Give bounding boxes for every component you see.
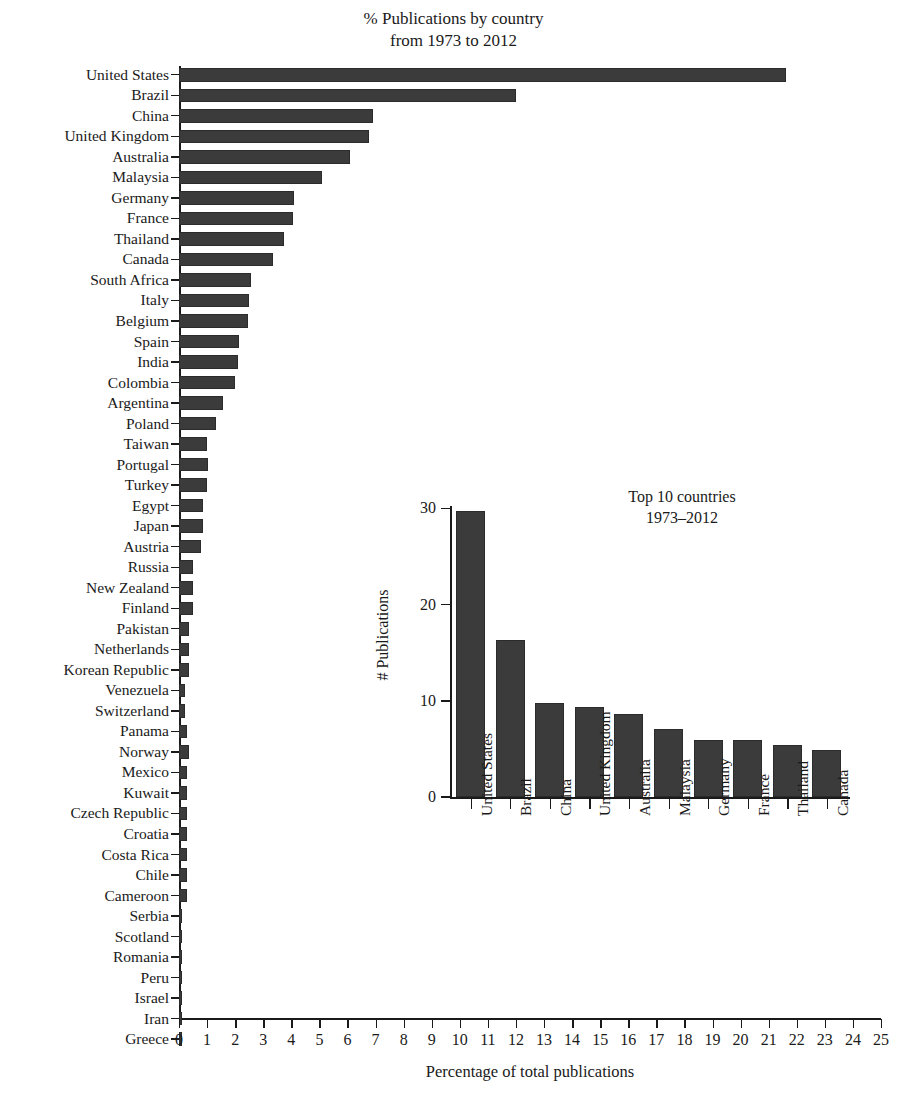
bar [179,663,189,677]
bar [179,109,373,123]
x-axis-tick [347,1019,348,1028]
category-label: Netherlands [0,641,169,657]
inset-x-axis-tick [589,799,590,809]
inset-y-axis-tick-label: 0 [392,789,436,805]
category-label-wrap: Brazil [0,87,169,103]
bar [179,971,182,985]
inset-x-axis-tick-label: United States [478,733,496,816]
category-label-wrap: Croatia [0,826,169,842]
bar [179,622,189,636]
category-label: Romania [0,949,169,965]
x-axis-tick [881,1019,882,1028]
category-label: United Kingdom [0,128,169,144]
category-label-wrap: Mexico [0,764,169,780]
bar [179,991,182,1005]
bar [179,376,235,390]
category-label: Portugal [0,457,169,473]
inset-x-axis-tick [708,799,709,809]
category-label-wrap: New Zealand [0,580,169,596]
bar [179,253,273,267]
category-label-wrap: Norway [0,744,169,760]
category-label: Korean Republic [0,662,169,678]
x-axis-tick [684,1019,685,1028]
bar [179,602,193,616]
category-label: Serbia [0,908,169,924]
bar [179,437,207,451]
inset-title: Top 10 countries 1973–2012 [502,486,862,528]
category-label-wrap: Malaysia [0,169,169,185]
category-label-wrap: Panama [0,723,169,739]
category-label-wrap: Poland [0,416,169,432]
inset-y-axis-tick [441,508,451,510]
category-label: Thailand [0,231,169,247]
category-label-wrap: South Africa [0,272,169,288]
inset-y-axis-tick-label: 10 [392,693,436,709]
x-axis-tick [853,1019,854,1028]
category-label-wrap: Switzerland [0,703,169,719]
category-label-wrap: Turkey [0,477,169,493]
x-axis-tick-label: 25 [861,1031,901,1049]
bar [179,704,185,718]
bar [179,212,293,226]
inset-x-axis-tick [550,799,551,809]
category-label: Malaysia [0,169,169,185]
category-label: Czech Republic [0,805,169,821]
category-label-wrap: Scotland [0,929,169,945]
category-label: Norway [0,744,169,760]
x-axis-tick [207,1019,208,1028]
category-label-wrap: Germany [0,190,169,206]
inset-x-axis-tick [510,799,511,809]
category-label: Mexico [0,764,169,780]
category-label: Colombia [0,375,169,391]
category-label: Italy [0,292,169,308]
category-label: China [0,108,169,124]
x-axis-tick [628,1019,629,1028]
category-label-wrap: United Kingdom [0,128,169,144]
inset-x-axis-tick [787,799,788,809]
category-label-wrap: Russia [0,559,169,575]
category-label-wrap: Colombia [0,375,169,391]
inset-x-axis-tick [827,799,828,809]
category-label: Costa Rica [0,847,169,863]
category-label-wrap: Belgium [0,313,169,329]
bar [179,519,203,533]
category-label: Brazil [0,87,169,103]
bar [179,827,187,841]
category-label: Pakistan [0,621,169,637]
bar [179,171,322,185]
x-axis-tick [713,1019,714,1028]
inset-x-axis-tick-label: Germany [715,758,733,816]
x-axis-title: Percentage of total publications [179,1062,881,1082]
category-label: Kuwait [0,785,169,801]
inset-x-axis-tick-label: Brazil [517,778,535,816]
bar [179,540,201,554]
x-axis-tick [432,1019,433,1028]
category-label-wrap: Canada [0,251,169,267]
category-label-wrap: Austria [0,539,169,555]
category-label-wrap: Spain [0,334,169,350]
category-label-wrap: Taiwan [0,436,169,452]
inset-x-axis-tick-label: Canada [834,770,852,816]
x-axis-tick [741,1019,742,1028]
category-label: Venezuela [0,682,169,698]
category-label-wrap: Czech Republic [0,805,169,821]
category-label: Argentina [0,395,169,411]
bar [179,130,369,144]
bar [179,745,189,759]
category-label-wrap: United States [0,67,169,83]
category-label: Poland [0,416,169,432]
x-axis-tick [376,1019,377,1028]
category-label: Spain [0,334,169,350]
x-axis-tick [600,1019,601,1028]
category-label-wrap: Australia [0,149,169,165]
category-label-wrap: Japan [0,518,169,534]
chart-title: % Publications by country from 1973 to 2… [0,8,907,52]
category-label: Greece [0,1031,169,1047]
category-label: Panama [0,723,169,739]
category-label-wrap: Argentina [0,395,169,411]
x-axis-tick [572,1019,573,1028]
category-label-wrap: Venezuela [0,682,169,698]
bar [179,273,251,287]
publications-figure: % Publications by country from 1973 to 2… [0,0,907,1106]
category-label-wrap: Greece [0,1031,169,1047]
